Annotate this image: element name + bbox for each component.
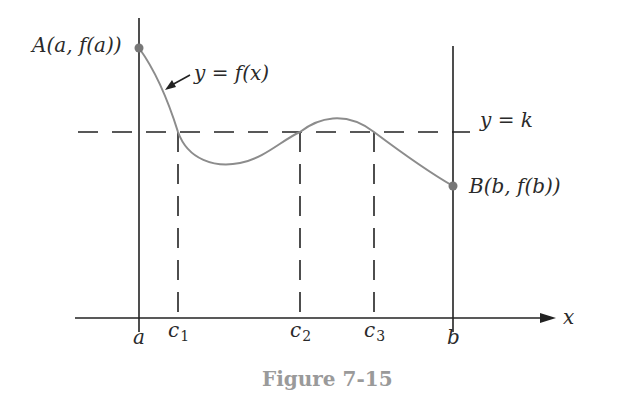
label-point-b: B(b, f(b)) [468, 174, 561, 198]
tick-label-c2: c2 [290, 318, 311, 344]
tick-label-c1: c1 [168, 318, 189, 344]
curve-f [139, 48, 453, 186]
label-curve: y = f(x) [193, 61, 269, 85]
label-point-a: A(a, f(a)) [30, 33, 122, 57]
label-x-axis: x [563, 305, 574, 329]
x-axis-arrow-icon [540, 313, 556, 323]
tick-label-b: b [447, 325, 460, 349]
point-b [449, 182, 458, 191]
tick-label-a: a [133, 325, 145, 349]
leader-arrow-icon [165, 80, 176, 90]
figure-caption: Figure 7-15 [262, 367, 393, 391]
label-level-k: y = k [479, 108, 533, 132]
point-a [135, 44, 144, 53]
tick-label-c3: c3 [364, 318, 385, 344]
intermediate-value-theorem-diagram: A(a, f(a)) y = f(x) y = k B(b, f(b)) x a… [0, 0, 619, 408]
